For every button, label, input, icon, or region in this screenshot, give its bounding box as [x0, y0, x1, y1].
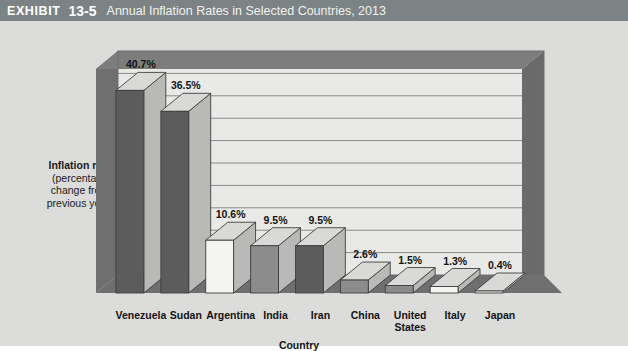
exhibit-label: EXHIBIT — [7, 4, 61, 18]
x-axis-title-text: Country — [279, 339, 319, 351]
chart-scene — [96, 35, 562, 307]
x-axis-label-japan: Japan — [466, 309, 534, 321]
chart-figure-area: Inflation rate (percentage change from p… — [0, 21, 628, 346]
exhibit-title: Annual Inflation Rates in Selected Count… — [107, 4, 386, 18]
exhibit-number: 13-5 — [69, 3, 97, 19]
x-axis-category-labels: VenezuelaSudanArgentinaIndiaIranChinaUni… — [96, 309, 562, 341]
chart-plot-area: 40.7%36.5%10.6%9.5%9.5%2.6%1.5%1.3%0.4% — [96, 35, 562, 307]
exhibit-header-bar: EXHIBIT 13-5 Annual Inflation Rates in S… — [0, 0, 628, 21]
x-axis-title: Country — [0, 339, 628, 351]
